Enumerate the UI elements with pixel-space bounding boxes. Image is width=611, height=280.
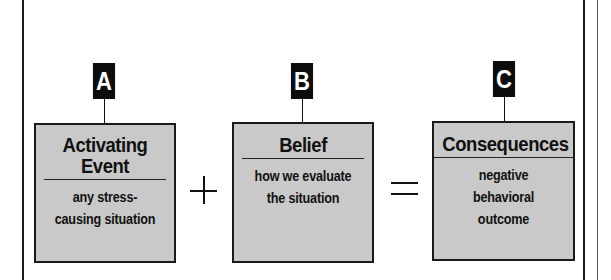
box-consequences: Consequences negative behavioral outcome [432, 121, 575, 261]
tag-a: A [93, 63, 115, 99]
connector-a [104, 99, 105, 124]
description-line: how we evaluate [241, 165, 365, 187]
description-line: causing situation [43, 208, 167, 230]
plus-icon-vertical [203, 176, 205, 204]
description-line: any stress- [43, 186, 167, 208]
frame-border-right [583, 0, 585, 280]
box-title-line: Belief [242, 134, 363, 155]
box-description: negative behavioral outcome [441, 158, 566, 230]
box-activating-event: Activating Event any stress- causing sit… [34, 123, 176, 263]
frame-border-left [22, 0, 24, 280]
box-title-line: Consequences [442, 133, 564, 154]
box-description: any stress- causing situation [43, 180, 167, 230]
description-line: behavioral [441, 186, 566, 208]
description-line: negative [441, 164, 566, 186]
box-title-line: Event [44, 155, 165, 176]
connector-b [302, 99, 303, 123]
description-line: outcome [441, 208, 566, 230]
description-line: the situation [241, 187, 365, 209]
equals-icon-bottom [391, 193, 418, 195]
tag-b: B [291, 63, 313, 99]
frame-border-right-outer [597, 0, 598, 280]
box-belief: Belief how we evaluate the situation [232, 122, 374, 263]
equals-icon-top [391, 182, 418, 184]
box-title-line: Activating [44, 134, 165, 155]
box-description: how we evaluate the situation [241, 159, 365, 209]
tag-c: C [493, 61, 515, 97]
connector-c [504, 97, 505, 122]
